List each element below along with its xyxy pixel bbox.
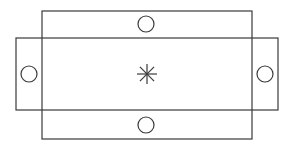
asterisk-icon xyxy=(137,64,157,84)
diagram-canvas xyxy=(0,0,296,146)
cross-diagram xyxy=(0,0,296,146)
left-circle xyxy=(21,66,37,82)
bottom-circle xyxy=(138,117,154,133)
top-circle xyxy=(138,16,154,32)
right-circle xyxy=(257,66,273,82)
